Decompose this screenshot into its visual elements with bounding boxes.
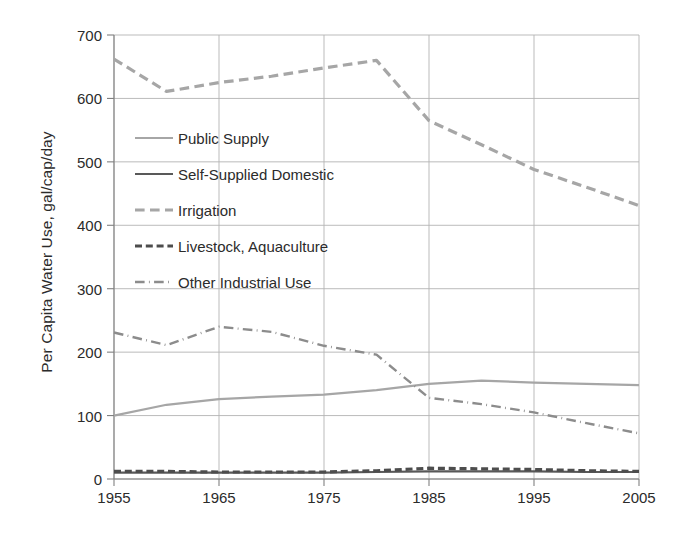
legend-item[interactable]: Self-Supplied Domestic	[134, 156, 334, 192]
legend-item[interactable]: Other Industrial Use	[134, 264, 334, 300]
chart-container: 0100200300400500600700 Per Capita Water …	[0, 0, 694, 544]
series-line-other-industrial-use	[114, 327, 639, 434]
x-axis-tick-label: 1995	[499, 489, 569, 506]
plot-area	[0, 0, 694, 544]
legend-item-label: Livestock, Aquaculture	[178, 238, 328, 255]
legend-item-label: Self-Supplied Domestic	[178, 166, 334, 183]
legend-line-swatch-icon	[134, 239, 174, 253]
legend-line-swatch-icon	[134, 167, 174, 181]
legend-line-swatch-icon	[134, 275, 174, 289]
x-axis-tick-label: 1965	[184, 489, 254, 506]
x-axis-tick-label: 2005	[604, 489, 674, 506]
legend-line-swatch-icon	[134, 131, 174, 145]
legend-item[interactable]: Livestock, Aquaculture	[134, 228, 334, 264]
legend-item-label: Other Industrial Use	[178, 274, 311, 291]
series-line-public-supply	[114, 381, 639, 416]
legend-item-label: Irrigation	[178, 202, 236, 219]
chart-legend: Public SupplySelf-Supplied DomesticIrrig…	[134, 120, 334, 300]
series-line-livestock-aquaculture	[114, 468, 639, 472]
x-axis-tick-label: 1975	[289, 489, 359, 506]
legend-item[interactable]: Irrigation	[134, 192, 334, 228]
legend-item-label: Public Supply	[178, 130, 269, 147]
legend-line-swatch-icon	[134, 203, 174, 217]
legend-item[interactable]: Public Supply	[134, 120, 334, 156]
x-axis-tick-label: 1985	[394, 489, 464, 506]
x-axis-tick-label: 1955	[79, 489, 149, 506]
